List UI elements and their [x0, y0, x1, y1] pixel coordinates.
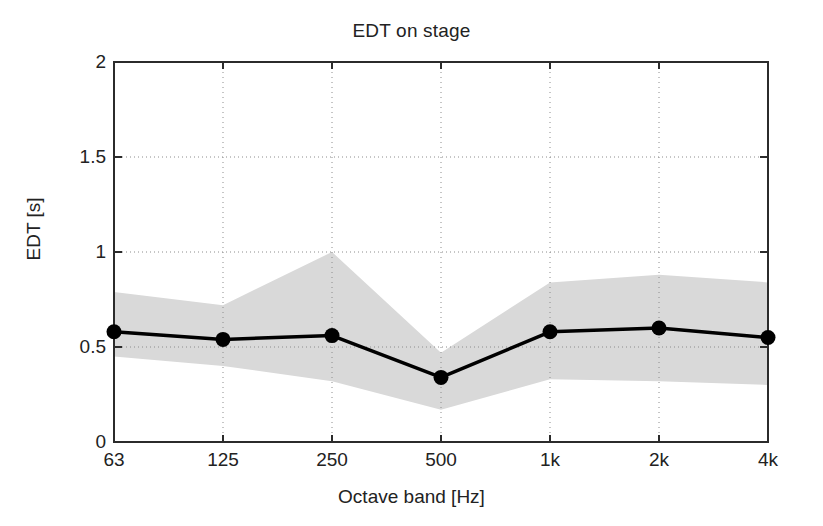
x-tick-label: 125	[188, 450, 258, 469]
y-tick-label: 0	[66, 432, 106, 451]
y-axis-tick-labels: 00.511.52	[60, 0, 106, 526]
x-tick-label: 250	[297, 450, 367, 469]
data-point-marker[interactable]	[761, 330, 776, 345]
data-point-marker[interactable]	[434, 370, 449, 385]
y-tick-label: 1.5	[66, 147, 106, 166]
x-tick-label: 500	[406, 450, 476, 469]
y-tick-label: 2	[66, 52, 106, 71]
y-tick-label: 0.5	[66, 337, 106, 356]
data-point-marker[interactable]	[652, 321, 667, 336]
x-tick-label: 2k	[624, 450, 694, 469]
x-tick-label: 63	[79, 450, 149, 469]
chart-figure: EDT on stage 00.511.52 Octave band [Hz] …	[0, 0, 823, 526]
plot-area	[0, 0, 823, 526]
data-point-marker[interactable]	[325, 328, 340, 343]
data-point-marker[interactable]	[216, 332, 231, 347]
x-tick-label: 1k	[515, 450, 585, 469]
y-axis-title: EDT [s]	[23, 149, 45, 309]
data-point-marker[interactable]	[107, 324, 122, 339]
y-tick-label: 1	[66, 242, 106, 261]
x-tick-label: 4k	[733, 450, 803, 469]
data-point-marker[interactable]	[543, 324, 558, 339]
x-axis-title: Octave band [Hz]	[0, 486, 823, 508]
